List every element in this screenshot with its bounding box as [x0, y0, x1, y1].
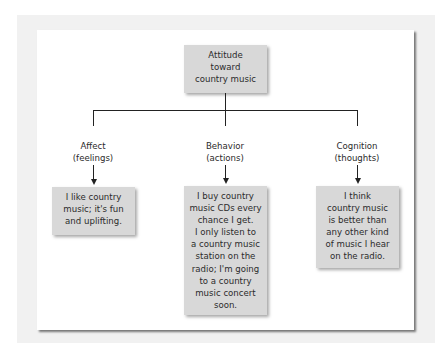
affect-example-box: I like country music; it's fun and uplif… — [52, 187, 135, 235]
cognition-branch-line — [357, 110, 358, 126]
affect-arrow-line — [93, 165, 94, 180]
root-node-attitude: Attitude toward country music — [184, 45, 267, 93]
behavior-example-box: I buy country music CDs every chance I g… — [184, 186, 267, 315]
affect-branch-line — [93, 110, 94, 126]
root-connector — [225, 93, 226, 111]
affect-label: Affect (feelings) — [48, 140, 138, 164]
affect-arrow-icon — [91, 179, 97, 185]
cognition-example-box: I think country music is better than any… — [316, 186, 399, 268]
behavior-arrow-line — [225, 165, 226, 179]
cognition-arrow-line — [357, 165, 358, 179]
cognition-label: Cognition (thoughts) — [312, 140, 402, 164]
behavior-label: Behavior (actions) — [180, 140, 270, 164]
behavior-branch-line — [225, 110, 226, 126]
behavior-arrow-icon — [223, 178, 229, 184]
cognition-arrow-icon — [355, 178, 361, 184]
